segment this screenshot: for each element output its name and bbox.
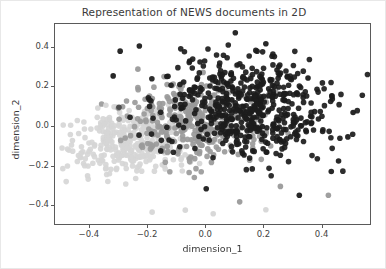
y-tick-mark	[51, 47, 54, 48]
x-tick-mark	[263, 225, 264, 228]
scatter-points-canvas	[55, 24, 371, 225]
plot-area	[54, 23, 371, 225]
y-tick-mark	[51, 126, 54, 127]
x-axis-label: dimension_1	[54, 243, 371, 254]
x-tick-label: 0.4	[315, 229, 329, 239]
page-title: Representation of NEWS documents in 2D	[1, 6, 386, 18]
x-tick-mark	[89, 225, 90, 228]
x-tick-label: −0.4	[79, 229, 100, 239]
x-tick-mark	[205, 225, 206, 228]
x-tick-label: −0.2	[137, 229, 158, 239]
matplotlib-figure: Representation of NEWS documents in 2D −…	[0, 0, 386, 269]
x-tick-label: 0.2	[257, 229, 271, 239]
x-tick-label: 0.0	[198, 229, 212, 239]
y-tick-mark	[51, 166, 54, 167]
y-axis-label: dimension_2	[10, 70, 21, 190]
x-tick-mark	[147, 225, 148, 228]
y-tick-mark	[51, 205, 54, 206]
y-tick-mark	[51, 86, 54, 87]
x-tick-mark	[322, 225, 323, 228]
